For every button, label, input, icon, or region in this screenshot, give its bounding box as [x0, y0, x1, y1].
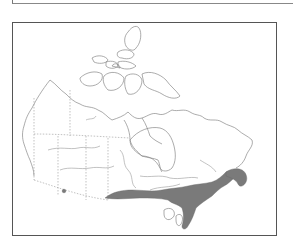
arctic-archipelago — [80, 26, 180, 98]
canada-range-map — [0, 0, 293, 252]
species-range — [62, 169, 247, 229]
hudson-bay — [130, 128, 175, 172]
rivers-and-lakes — [48, 116, 216, 190]
great-lakes — [164, 208, 183, 225]
political-boundaries — [34, 90, 130, 200]
isolated-occurrence-dot — [62, 189, 66, 193]
mainland-coastline — [23, 80, 253, 176]
